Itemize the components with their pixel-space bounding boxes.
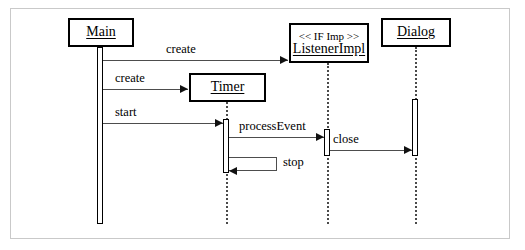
arrowhead-stop bbox=[229, 167, 237, 175]
arrowhead-create-timer bbox=[180, 85, 188, 93]
message-label-stop: stop bbox=[283, 155, 304, 170]
participant-box-listenerimpl[interactable]: << IF Imp >> ListenerImpl bbox=[289, 23, 369, 63]
activation-bar-dialog bbox=[412, 99, 418, 156]
message-line-close bbox=[330, 150, 412, 151]
message-label-create-timer: create bbox=[115, 71, 145, 86]
activation-bar-listenerimpl bbox=[324, 129, 330, 156]
message-label-start: start bbox=[115, 105, 137, 120]
sequence-diagram-canvas: create create start processEvent close s… bbox=[0, 0, 525, 250]
participant-name-dialog: Dialog bbox=[397, 25, 435, 40]
activation-bar-timer bbox=[223, 119, 229, 173]
arrowhead-create-listenerimpl bbox=[280, 56, 288, 64]
message-label-close: close bbox=[333, 132, 359, 147]
arrowhead-processevent bbox=[316, 133, 324, 141]
activation-bar-main bbox=[97, 47, 103, 224]
participant-box-dialog[interactable]: Dialog bbox=[381, 18, 451, 47]
message-line-create-timer bbox=[103, 89, 188, 90]
arrowhead-start bbox=[215, 119, 223, 127]
participant-name-main: Main bbox=[86, 25, 116, 40]
participant-stereotype-listenerimpl: << IF Imp >> bbox=[299, 30, 360, 42]
message-label-processevent: processEvent bbox=[239, 119, 306, 134]
message-label-create-listenerimpl: create bbox=[166, 42, 196, 57]
diagram-frame: create create start processEvent close s… bbox=[10, 8, 510, 239]
participant-box-main[interactable]: Main bbox=[68, 18, 134, 47]
message-line-create-listenerimpl bbox=[103, 60, 288, 61]
message-line-start bbox=[103, 123, 223, 124]
message-line-processevent bbox=[229, 137, 324, 138]
arrowhead-close bbox=[404, 146, 412, 154]
participant-name-listenerimpl: ListenerImpl bbox=[293, 42, 365, 57]
participant-name-timer: Timer bbox=[211, 80, 245, 95]
participant-box-timer[interactable]: Timer bbox=[189, 73, 266, 102]
